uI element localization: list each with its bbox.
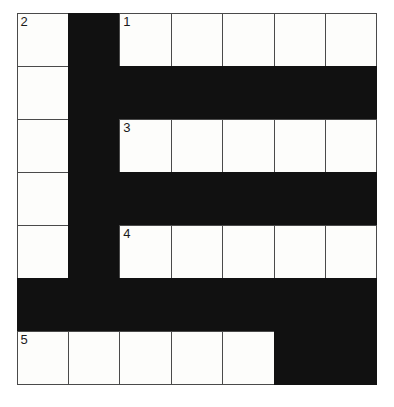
crossword-cell-white[interactable] [68,331,120,385]
crossword-cell-white[interactable] [325,119,377,173]
crossword-cell-white[interactable] [17,66,69,120]
crossword-cell-white[interactable]: 3 [119,119,171,173]
crossword-cell-white[interactable] [222,119,274,173]
crossword-cell-black [325,172,377,226]
crossword-cell-black [274,278,326,332]
crossword-cell-white[interactable] [325,13,377,67]
crossword-cell-black [171,66,223,120]
crossword-cell-black [222,172,274,226]
crossword-cell-black [17,278,69,332]
crossword-cell-white[interactable]: 1 [119,13,171,67]
crossword-cell-black [119,278,171,332]
crossword-cell-black [68,225,120,279]
crossword-cell-white[interactable] [222,13,274,67]
crossword-cell-black [274,66,326,120]
crossword-cell-white[interactable]: 4 [119,225,171,279]
crossword-cell-black [68,66,120,120]
crossword-clue-number: 1 [123,14,130,29]
crossword-cell-white[interactable] [274,225,326,279]
crossword-cell-black [325,331,377,385]
crossword-cell-black [171,172,223,226]
crossword-cell-black [325,278,377,332]
crossword-cell-black [68,172,120,226]
crossword-grid[interactable]: 21345 [17,13,377,385]
crossword-cell-black [68,278,120,332]
crossword-cell-black [119,172,171,226]
crossword-cell-white[interactable] [171,331,223,385]
crossword-puzzle-root: 21345 [0,0,394,407]
crossword-cell-white[interactable] [119,331,171,385]
crossword-clue-number: 3 [123,120,130,135]
crossword-cell-white[interactable] [171,13,223,67]
crossword-cell-black [274,331,326,385]
crossword-cell-white[interactable] [274,119,326,173]
crossword-clue-number: 2 [21,14,28,29]
crossword-cell-black [222,278,274,332]
crossword-cell-black [68,13,120,67]
crossword-cell-white[interactable] [222,331,274,385]
crossword-cell-white[interactable] [171,225,223,279]
crossword-clue-number: 4 [123,226,130,241]
crossword-cell-white[interactable]: 2 [17,13,69,67]
crossword-cell-white[interactable]: 5 [17,331,69,385]
crossword-clue-number: 5 [21,332,28,347]
crossword-cell-black [274,172,326,226]
crossword-cell-black [222,66,274,120]
crossword-cell-white[interactable] [222,225,274,279]
crossword-cell-black [325,66,377,120]
crossword-cell-white[interactable] [17,172,69,226]
crossword-cell-white[interactable] [17,225,69,279]
crossword-cell-black [119,66,171,120]
crossword-cell-black [68,119,120,173]
crossword-cell-white[interactable] [274,13,326,67]
crossword-cell-white[interactable] [325,225,377,279]
crossword-cell-white[interactable] [17,119,69,173]
crossword-cell-white[interactable] [171,119,223,173]
crossword-cell-black [171,278,223,332]
